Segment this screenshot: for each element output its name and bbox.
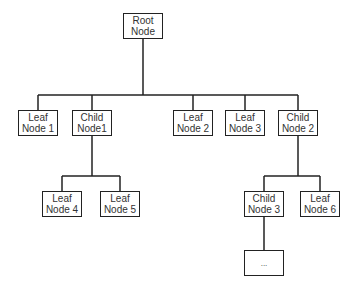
node-label: Node — [131, 26, 155, 37]
node-leaf-1: Leaf Node 1 — [18, 110, 58, 136]
node-label: Node1 — [77, 123, 106, 134]
node-label: Child — [81, 112, 104, 123]
node-label: Leaf — [28, 112, 47, 123]
node-label: Node 5 — [104, 204, 136, 215]
node-child-3: Child Node 3 — [244, 191, 284, 217]
node-label: Leaf — [183, 112, 202, 123]
node-label: Node 1 — [22, 123, 54, 134]
node-child-1: Child Node1 — [72, 110, 112, 136]
node-label: Node 2 — [282, 123, 314, 134]
node-label: Leaf — [52, 193, 71, 204]
node-label: Node 6 — [304, 204, 336, 215]
node-leaf-4: Leaf Node 4 — [42, 191, 82, 217]
node-label: Node 3 — [229, 123, 261, 134]
node-label: ... — [261, 258, 268, 269]
node-leaf-3: Leaf Node 3 — [225, 110, 265, 136]
node-label: Leaf — [110, 193, 129, 204]
node-leaf-2: Leaf Node 2 — [173, 110, 213, 136]
node-label: Child — [287, 112, 310, 123]
node-leaf-6: Leaf Node 6 — [300, 191, 340, 217]
node-label: Root — [132, 15, 153, 26]
node-label: Leaf — [235, 112, 254, 123]
node-label: Node 4 — [46, 204, 78, 215]
node-label: Node 3 — [248, 204, 280, 215]
node-label: Child — [253, 193, 276, 204]
connector-lines — [0, 0, 358, 294]
node-root: Root Node — [123, 13, 163, 39]
node-label: Node 2 — [177, 123, 209, 134]
node-leaf-5: Leaf Node 5 — [100, 191, 140, 217]
node-child-2: Child Node 2 — [278, 110, 318, 136]
node-label: Leaf — [310, 193, 329, 204]
node-ellipsis: ... — [244, 250, 284, 276]
